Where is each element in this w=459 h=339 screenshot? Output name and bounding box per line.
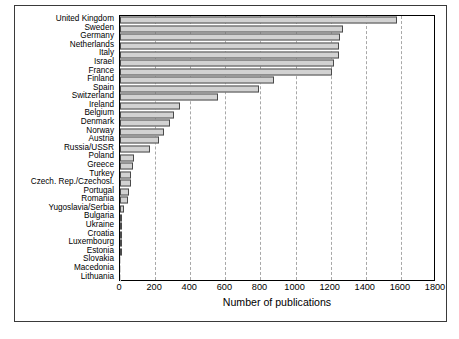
category-axis-labels: United KingdomSwedenGermanyNetherlandsIt…: [15, 15, 117, 281]
x-tick-label-1600: 1600: [390, 282, 410, 292]
bar-austria: [120, 137, 159, 144]
x-tick-label-600: 600: [217, 282, 232, 292]
bar-row: [120, 16, 434, 25]
bar-row: [120, 93, 434, 102]
bar-row: [120, 102, 434, 111]
bar-netherlands: [120, 43, 339, 50]
bar-russia-ussr: [120, 145, 150, 152]
bar-series: [120, 16, 434, 280]
bar-row: [120, 162, 434, 171]
x-axis-title: Number of publications: [119, 296, 435, 308]
bar-turkey: [120, 171, 131, 178]
bar-row: [120, 230, 434, 239]
bar-denmark: [120, 120, 170, 127]
x-tick-label-1400: 1400: [355, 282, 375, 292]
bar-row: [120, 25, 434, 34]
x-tick-label-0: 0: [116, 282, 121, 292]
bar-row: [120, 239, 434, 248]
bar-row: [120, 265, 434, 274]
bar-row: [120, 76, 434, 85]
bar-row: [120, 110, 434, 119]
bar-yugoslavia-serbia: [120, 206, 124, 213]
bar-united-kingdom: [120, 17, 397, 24]
bar-row: [120, 222, 434, 231]
bar-germany: [120, 34, 340, 41]
bar-row: [120, 179, 434, 188]
x-tick-label-400: 400: [182, 282, 197, 292]
bar-romania: [120, 197, 128, 204]
bar-spain: [120, 85, 259, 92]
bar-row: [120, 136, 434, 145]
bar-row: [120, 67, 434, 76]
bar-row: [120, 213, 434, 222]
figure-frame: United KingdomSwedenGermanyNetherlandsIt…: [14, 5, 447, 322]
category-label: Lithuania: [81, 273, 114, 281]
bar-switzerland: [120, 94, 218, 101]
category-label: Macedonia: [74, 264, 114, 272]
bar-row: [120, 273, 434, 282]
bar-slovakia: [120, 257, 121, 264]
bar-norway: [120, 128, 164, 135]
bar-ukraine: [120, 223, 122, 230]
bar-france: [120, 68, 332, 75]
bar-row: [120, 153, 434, 162]
bar-row: [120, 85, 434, 94]
bar-greece: [120, 163, 133, 170]
x-tick-label-800: 800: [252, 282, 267, 292]
x-tick-label-200: 200: [146, 282, 161, 292]
bar-row: [120, 248, 434, 257]
category-label: Greece: [87, 161, 114, 169]
bar-row: [120, 42, 434, 51]
bar-row: [120, 59, 434, 68]
category-label: Ukraine: [86, 221, 114, 229]
bar-italy: [120, 51, 339, 58]
value-axis-ticks: 020040060080010001200140016001800: [119, 282, 435, 294]
bar-macedonia: [120, 266, 121, 273]
bar-israel: [120, 60, 334, 67]
x-tick-label-1000: 1000: [284, 282, 304, 292]
bar-estonia: [120, 248, 122, 255]
bar-luxembourg: [120, 240, 122, 247]
bar-row: [120, 196, 434, 205]
bar-finland: [120, 77, 274, 84]
bar-sweden: [120, 25, 343, 32]
category-label: Israel: [94, 58, 114, 66]
bar-row: [120, 256, 434, 265]
bar-row: [120, 145, 434, 154]
x-tick-label-1200: 1200: [319, 282, 339, 292]
bar-belgium: [120, 111, 174, 118]
bar-croatia: [120, 231, 122, 238]
bar-row: [120, 170, 434, 179]
bar-czech-rep-czechosl: [120, 180, 131, 187]
bar-poland: [120, 154, 134, 161]
plot-area: [119, 15, 435, 281]
bar-row: [120, 50, 434, 59]
bar-portugal: [120, 188, 129, 195]
bar-row: [120, 205, 434, 214]
x-tick-label-1800: 1800: [425, 282, 445, 292]
bar-ireland: [120, 103, 180, 110]
bar-bulgaria: [120, 214, 122, 221]
bar-row: [120, 119, 434, 128]
bar-row: [120, 188, 434, 197]
bar-lithuania: [120, 274, 121, 281]
bar-row: [120, 33, 434, 42]
bar-row: [120, 128, 434, 137]
